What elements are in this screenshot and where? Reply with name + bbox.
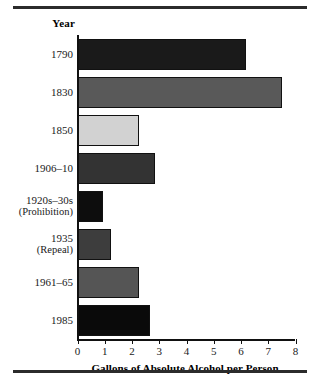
bar — [78, 39, 246, 70]
bar-track — [78, 115, 298, 146]
bar-track — [78, 267, 298, 298]
bar — [78, 191, 103, 222]
bar-row-label: 1830 — [0, 73, 75, 111]
bar-rows: 1790183018501906–101920s–30s(Prohibition… — [0, 35, 320, 339]
bar-row-label-line2: (Repeal) — [37, 244, 73, 257]
bar-chart-figure: Year 1790183018501906–101920s–30s(Prohib… — [0, 0, 320, 381]
bar-row-label-line1: 1906–10 — [35, 162, 74, 175]
bar-row-label-line1: 1830 — [51, 86, 73, 99]
bar — [78, 267, 139, 298]
bar-row: 1935(Repeal) — [0, 225, 320, 263]
bar-track — [78, 229, 298, 260]
x-axis-tick — [241, 339, 242, 344]
bar-row-label: 1906–10 — [0, 149, 75, 187]
bar-row-label: 1985 — [0, 301, 75, 339]
x-axis-tick-label: 1 — [95, 345, 115, 357]
bar-row-label-line1: 1935 — [51, 232, 73, 245]
x-axis-tick-label: 7 — [258, 345, 278, 357]
x-axis-tick — [187, 339, 188, 344]
bar-track — [78, 191, 298, 222]
bar — [78, 77, 282, 108]
x-axis-tick — [159, 339, 160, 344]
bar-track — [78, 153, 298, 184]
bar-row-label: 1935(Repeal) — [0, 225, 75, 263]
x-axis-tick — [105, 339, 106, 344]
bar-row: 1830 — [0, 73, 320, 111]
bar — [78, 305, 150, 336]
bar-row: 1850 — [0, 111, 320, 149]
year-column-header: Year — [0, 17, 75, 29]
plot-area: Year 1790183018501906–101920s–30s(Prohib… — [0, 12, 320, 364]
bar-row-label-line1: 1850 — [51, 124, 73, 137]
bar-row-label-line1: 1790 — [51, 48, 73, 61]
bar-row: 1790 — [0, 35, 320, 73]
bar-row-label: 1961–65 — [0, 263, 75, 301]
x-axis-tick-label: 4 — [177, 345, 197, 357]
x-axis-tick-label: 6 — [231, 345, 251, 357]
bar-row-label-line1: 1920s–30s — [26, 194, 73, 207]
bar-row-label-line2: (Prohibition) — [19, 206, 73, 219]
bar-row-label-line1: 1961–65 — [35, 276, 74, 289]
bar — [78, 115, 139, 146]
x-axis-tick-label: 2 — [122, 345, 142, 357]
y-axis-line — [77, 35, 79, 339]
bar-row-label: 1790 — [0, 35, 75, 73]
bar-row: 1906–10 — [0, 149, 320, 187]
x-axis-tick-label: 5 — [204, 345, 224, 357]
top-rule — [13, 6, 307, 9]
x-axis-tick-label: 3 — [149, 345, 169, 357]
bar-track — [78, 39, 298, 70]
x-axis-tick — [214, 339, 215, 344]
bar-track — [78, 77, 298, 108]
bar-row: 1920s–30s(Prohibition) — [0, 187, 320, 225]
x-axis-tick-label: 0 — [68, 345, 88, 357]
bar-row: 1961–65 — [0, 263, 320, 301]
bar-row: 1985 — [0, 301, 320, 339]
bar-row-label-line1: 1985 — [51, 314, 73, 327]
x-axis-tick — [78, 339, 79, 344]
x-axis-tick-label: 8 — [286, 345, 306, 357]
bar-track — [78, 305, 298, 336]
bar-row-label: 1850 — [0, 111, 75, 149]
bottom-rule — [13, 370, 307, 373]
bar-row-label: 1920s–30s(Prohibition) — [0, 187, 75, 225]
bar — [78, 153, 155, 184]
x-axis-tick — [296, 339, 297, 344]
bar — [78, 229, 111, 260]
x-axis-tick — [268, 339, 269, 344]
x-axis-tick — [132, 339, 133, 344]
